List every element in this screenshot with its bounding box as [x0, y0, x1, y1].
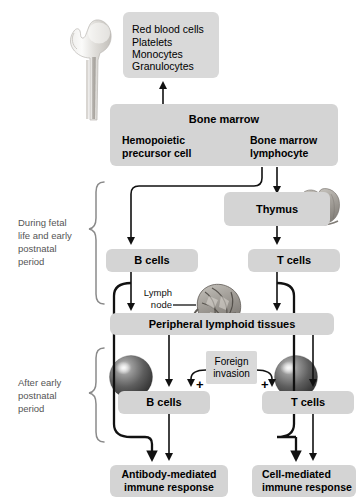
antibody-response-line-1: Antibody-mediated — [121, 468, 216, 481]
precursor-line-1: Hemopoietic — [122, 134, 185, 146]
blood-cell-type: Granulocytes — [132, 60, 194, 72]
blood-cells-box: Red blood cells Platelets Monocytes Gran… — [123, 12, 219, 78]
bone-marrow-lymphocyte-label: Bone marrow lymphocyte — [250, 134, 336, 159]
fetal-label-line-1: During fetal — [18, 217, 67, 228]
foreign-invasion-line-2: invasion — [213, 368, 250, 380]
t-cells-box-stage2: T cells — [262, 391, 354, 414]
lymph-node-line-2: node — [151, 299, 172, 310]
lymph-node-line-1: Lymph — [144, 287, 172, 298]
thymus-box: Thymus — [224, 192, 330, 226]
bone-marrow-title: Bone marrow — [110, 113, 338, 126]
peripheral-lymphoid-tissues-box: Peripheral lymphoid tissues — [110, 313, 334, 335]
bone-marrow-box: Bone marrow Hemopoietic precursor cell B… — [110, 104, 338, 166]
cell-mediated-response-box: Cell-mediated immune response — [252, 465, 356, 497]
b-cells-box-stage1: B cells — [106, 249, 198, 272]
fetal-label-line-3: postnatal — [18, 243, 57, 254]
fetal-label-line-4: period — [18, 256, 44, 267]
foreign-invasion-line-1: Foreign — [215, 356, 249, 368]
fetal-label-line-2: life and early — [18, 230, 72, 241]
hemopoietic-precursor-label: Hemopoietic precursor cell — [122, 134, 214, 159]
t-cells-box-stage1: T cells — [248, 249, 340, 272]
cell-response-line-2: immune response — [262, 481, 352, 494]
blood-cell-type: Red blood cells — [132, 23, 204, 35]
foreign-invasion-box: Foreign invasion — [206, 351, 257, 384]
antibody-mediated-response-box: Antibody-mediated immune response — [110, 465, 228, 497]
b-cells-box-stage2: B cells — [118, 391, 210, 414]
lymphocyte-line-1: Bone marrow — [250, 134, 317, 146]
lymphocyte-line-2: lymphocyte — [250, 147, 308, 159]
cell-response-line-1: Cell-mediated — [262, 468, 331, 481]
antibody-response-line-2: immune response — [124, 481, 214, 494]
postnatal-label-line-2: postnatal — [18, 390, 57, 401]
blood-cell-type: Platelets — [132, 36, 172, 48]
plus-sign-left: + — [196, 378, 204, 391]
lymph-node-label: Lymph node — [126, 287, 172, 311]
plus-sign-right: + — [261, 378, 269, 391]
precursor-line-2: precursor cell — [122, 147, 191, 159]
blood-cell-type: Monocytes — [132, 48, 183, 60]
bracket-label-fetal: During fetal life and early postnatal pe… — [18, 216, 92, 268]
bracket-label-postnatal: After early postnatal period — [18, 376, 92, 415]
postnatal-label-line-1: After early — [18, 377, 61, 388]
postnatal-label-line-3: period — [18, 403, 44, 414]
